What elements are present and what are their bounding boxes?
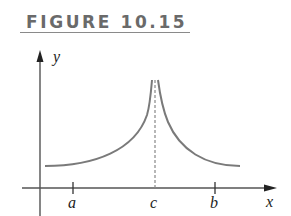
figure-plot: y x a c b [0, 0, 291, 216]
curve-right-branch [158, 80, 240, 166]
y-axis-arrow-icon [37, 50, 44, 62]
label-a: a [68, 194, 76, 211]
x-axis-arrow-icon [264, 185, 277, 192]
label-b: b [210, 194, 218, 211]
curve-left-branch [45, 80, 152, 166]
label-c: c [150, 194, 157, 211]
y-axis-label: y [51, 48, 61, 66]
x-axis-label: x [265, 193, 273, 210]
